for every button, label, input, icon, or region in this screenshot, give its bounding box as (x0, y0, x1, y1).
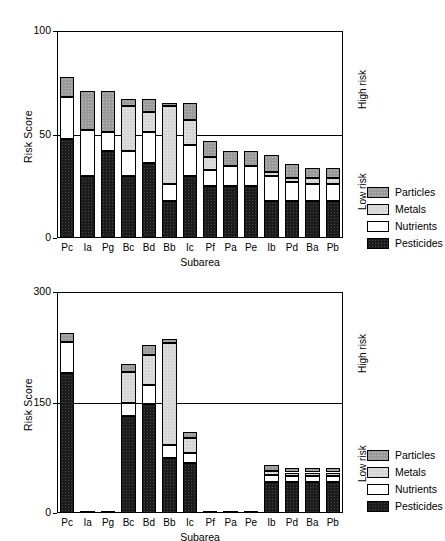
bar-segment-particles (162, 103, 176, 105)
legend-swatch-pesticides (367, 238, 389, 249)
bar-segment-pesticides (162, 201, 176, 238)
bar-segment-pesticides (101, 151, 115, 238)
bar-stack (101, 292, 115, 513)
legend-label-nutrients: Nutrients (395, 483, 437, 496)
y-tick-label: 50 (21, 128, 51, 140)
bar-segment-particles (80, 91, 94, 130)
chart-bottom: Risk Score Subarea High risk Low risk Pa… (0, 271, 445, 541)
x-axis-label-top: Subarea (57, 256, 343, 268)
bar-segment-pesticides (101, 511, 115, 513)
bar-segment-particles (142, 345, 156, 355)
bar-segment-pesticides (244, 186, 258, 238)
y-tick-mark (53, 31, 57, 32)
bar-segment-nutrients (326, 476, 340, 482)
bar-segment-metals (326, 178, 340, 184)
bar-segment-nutrients (183, 145, 197, 176)
bar-segment-pesticides (80, 511, 94, 513)
bar-segment-particles (183, 103, 197, 120)
legend-label-metals: Metals (395, 203, 426, 216)
bar-segment-particles (60, 333, 74, 342)
bar-segment-nutrients (244, 166, 258, 187)
bar-segment-metals (142, 355, 156, 384)
bar-segment-nutrients (285, 476, 299, 482)
bar-segment-pesticides (60, 139, 74, 238)
bar-segment-nutrients (203, 170, 217, 187)
y-tick-mark (53, 238, 57, 239)
bar-stack (244, 31, 258, 238)
bar-segment-nutrients (121, 403, 135, 416)
bar-stack (264, 292, 278, 513)
bar-segment-nutrients (162, 445, 176, 458)
bar-segment-nutrients (80, 130, 94, 176)
bar-segment-metals (264, 172, 278, 176)
bar-stack (121, 31, 135, 238)
x-axis-label-bottom: Subarea (57, 531, 343, 541)
bar-segment-pesticides (305, 201, 319, 238)
bar-segment-pesticides (142, 404, 156, 513)
legend-swatch-particles (367, 187, 389, 198)
bar-stack (60, 292, 74, 513)
bar-segment-pesticides (80, 176, 94, 238)
bar-stack (162, 31, 176, 238)
bar-segment-nutrients (121, 151, 135, 176)
bar-segment-pesticides (121, 176, 135, 238)
bar-segment-nutrients (223, 166, 237, 187)
bar-segment-nutrients (264, 176, 278, 201)
bar-segment-nutrients (162, 184, 176, 201)
bar-segment-nutrients (183, 453, 197, 463)
bar-segment-metals (264, 471, 278, 475)
legend-swatch-nutrients (367, 484, 389, 495)
bar-segment-metals (183, 120, 197, 145)
bar-segment-particles (244, 151, 258, 165)
bar-segment-metals (142, 112, 156, 133)
bar-segment-particles (142, 99, 156, 111)
bar-segment-particles (121, 99, 135, 105)
bar-segment-pesticides (285, 482, 299, 513)
legend-swatch-particles (367, 450, 389, 461)
bar-segment-particles (285, 164, 299, 178)
bar-segment-metals (305, 178, 319, 184)
bar-segment-metals (285, 178, 299, 182)
bar-stack (285, 292, 299, 513)
x-tick-label: Pb (317, 242, 349, 253)
bar-stack (223, 292, 237, 513)
y-tick-label: 0 (21, 231, 51, 243)
x-tick-label: Pb (317, 517, 349, 528)
bar-segment-pesticides (326, 482, 340, 513)
bar-segment-metals (162, 106, 176, 185)
bar-segment-pesticides (326, 201, 340, 238)
y-tick-label: 300 (21, 285, 51, 297)
y-tick-label: 0 (21, 506, 51, 518)
bar-stack (305, 31, 319, 238)
bar-stack (285, 31, 299, 238)
bar-stack (326, 31, 340, 238)
y-tick-mark (53, 513, 57, 514)
bar-segment-metals (121, 372, 135, 403)
y-tick-mark (53, 292, 57, 293)
bar-stack (142, 31, 156, 238)
bar-segment-metals (203, 157, 217, 169)
bar-segment-particles (326, 468, 340, 472)
legend-swatch-metals (367, 204, 389, 215)
bar-stack (244, 292, 258, 513)
bar-segment-nutrients (264, 475, 278, 482)
bar-segment-metals (326, 473, 340, 477)
bar-segment-particles (121, 364, 135, 371)
bar-segment-metals (305, 473, 319, 477)
bar-segment-nutrients (101, 132, 115, 151)
bar-segment-nutrients (305, 476, 319, 482)
bar-segment-nutrients (285, 182, 299, 201)
risk-threshold-line (57, 135, 343, 136)
legend-label-particles: Particles (395, 186, 435, 199)
bar-segment-nutrients (142, 385, 156, 404)
legend-label-particles: Particles (395, 449, 435, 462)
bar-segment-particles (264, 155, 278, 172)
legend-swatch-nutrients (367, 221, 389, 232)
bar-stack (80, 31, 94, 238)
bar-stack (326, 292, 340, 513)
bar-segment-particles (264, 465, 278, 471)
bar-segment-particles (223, 151, 237, 165)
legend-swatch-pesticides (367, 501, 389, 512)
bar-segment-nutrients (326, 184, 340, 201)
bar-segment-pesticides (285, 201, 299, 238)
